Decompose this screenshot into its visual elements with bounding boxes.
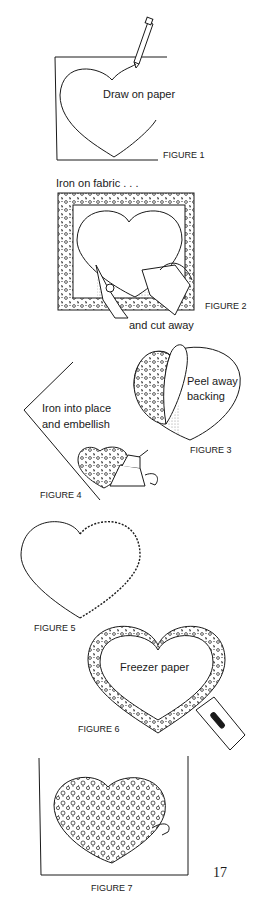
figure-7-drawing bbox=[39, 756, 188, 875]
illustration-artwork bbox=[0, 0, 258, 912]
figure-1-caption: FIGURE 1 bbox=[163, 150, 205, 160]
figure-3-label-line-1: Peel away bbox=[187, 374, 238, 388]
figure-5-drawing bbox=[21, 522, 140, 618]
figure-4-label-line-2: and embellish bbox=[42, 417, 110, 431]
figure-3-label-line-2: backing bbox=[187, 389, 225, 403]
figure-6-caption: FIGURE 6 bbox=[78, 724, 120, 734]
figure-6-label: Freezer paper bbox=[120, 660, 189, 674]
figure-1-label: Draw on paper bbox=[103, 87, 175, 101]
figure-2-label-iron-on-fabric: Iron on fabric . . . bbox=[56, 176, 139, 190]
figure-5-caption: FIGURE 5 bbox=[34, 623, 76, 633]
figure-2-caption: FIGURE 2 bbox=[205, 301, 247, 311]
figure-4-caption: FIGURE 4 bbox=[40, 490, 82, 500]
figure-4-label-line-1: Iron into place bbox=[42, 401, 111, 415]
figure-2-drawing bbox=[58, 193, 194, 318]
figure-7-caption: FIGURE 7 bbox=[91, 883, 133, 893]
figure-2-label-cut-away: and cut away bbox=[129, 318, 194, 332]
page-number: 17 bbox=[213, 865, 227, 881]
figure-3-caption: FIGURE 3 bbox=[190, 445, 232, 455]
